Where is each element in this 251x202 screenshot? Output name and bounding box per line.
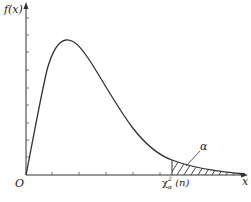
alpha-leader-line	[186, 151, 200, 166]
y-axis	[24, 2, 30, 175]
y-axis-arrow-icon	[24, 2, 29, 9]
y-axis-label: f(x)	[4, 3, 23, 16]
chi-square-density-chart	[0, 0, 251, 202]
origin-label: O	[15, 177, 24, 190]
critical-sup: 2	[168, 175, 172, 182]
critical-value-label: χ2α (n)	[162, 176, 189, 190]
alpha-label: α	[200, 140, 207, 153]
critical-sub: α	[168, 183, 172, 190]
x-axis-label: x	[242, 175, 248, 188]
density-curve	[26, 40, 245, 175]
critical-arg: (n)	[175, 177, 189, 188]
x-axis	[26, 172, 248, 178]
